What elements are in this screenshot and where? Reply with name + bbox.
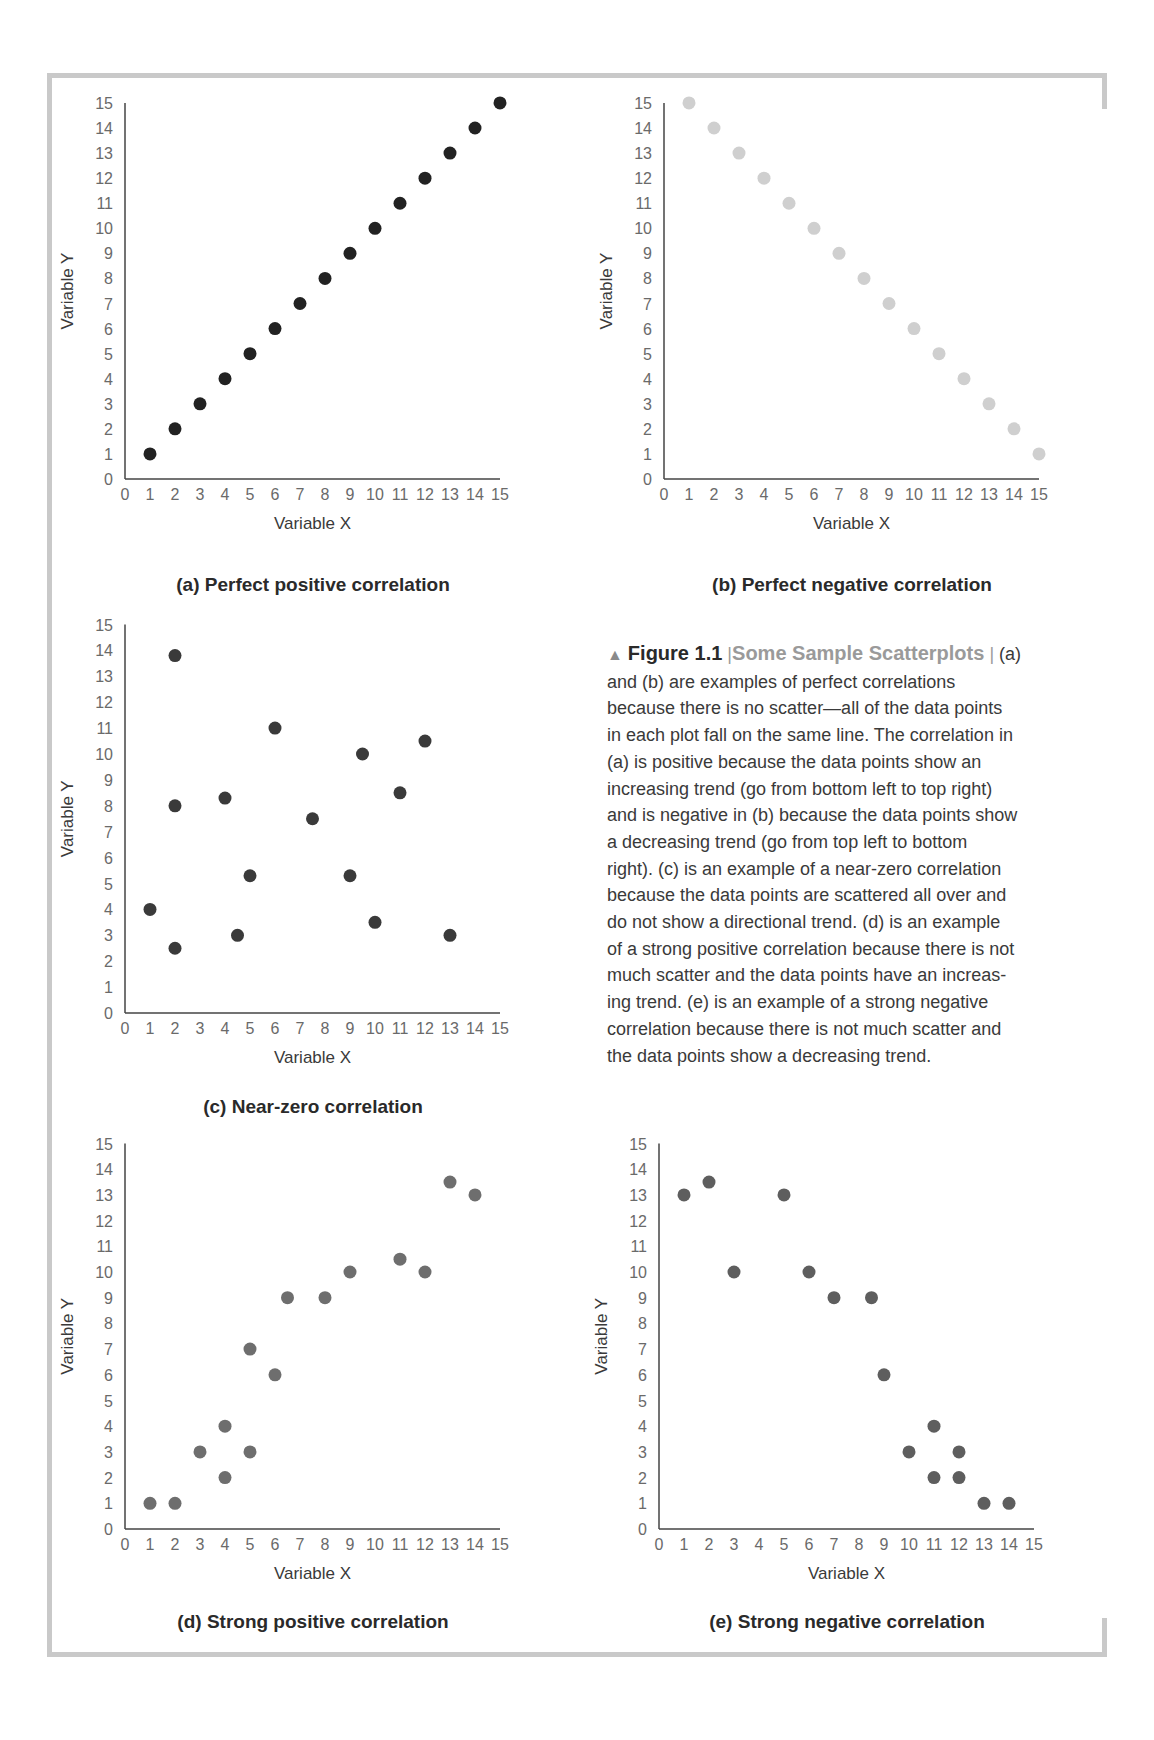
data-point (678, 1188, 691, 1201)
x-tick-label: 11 (926, 1536, 943, 1553)
y-tick-label: 5 (638, 1393, 647, 1410)
caption-line-3: in each plot fall on the same line. The … (607, 725, 1013, 745)
data-point (865, 1291, 878, 1304)
x-tick-label: 12 (950, 1536, 968, 1553)
caption-line-15: the data points show a decreasing trend. (607, 1046, 931, 1066)
caption-line-13: ing trend. (e) is an example of a strong… (607, 992, 988, 1012)
x-tick-label: 14 (1000, 1536, 1018, 1553)
y-tick-label: 0 (638, 1521, 647, 1538)
x-tick-label: 1 (680, 1536, 689, 1553)
x-tick-label: 5 (780, 1536, 789, 1553)
data-point (953, 1445, 966, 1458)
triangle-marker-icon: ▲ (607, 646, 623, 663)
caption-line-10: do not show a directional trend. (d) is … (607, 912, 1000, 932)
y-tick-label: 2 (638, 1470, 647, 1487)
caption-line-7: a decreasing trend (go from top left to … (607, 832, 967, 852)
x-tick-label: 2 (705, 1536, 714, 1553)
caption-line-5: increasing trend (go from bottom left to… (607, 779, 992, 799)
data-point (828, 1291, 841, 1304)
y-tick-label: 13 (629, 1187, 647, 1204)
x-axis-title: Variable X (808, 1564, 885, 1583)
y-tick-label: 8 (638, 1315, 647, 1332)
data-point (928, 1420, 941, 1433)
x-tick-label: 8 (855, 1536, 864, 1553)
y-tick-label: 3 (638, 1444, 647, 1461)
x-tick-label: 6 (805, 1536, 814, 1553)
data-point (703, 1176, 716, 1189)
data-point (928, 1471, 941, 1484)
caption-line-1: and (b) are examples of perfect correlat… (607, 672, 955, 692)
x-tick-label: 3 (730, 1536, 739, 1553)
caption-line-2: because there is no scatter—all of the d… (607, 698, 1002, 718)
caption-line-8: right). (c) is an example of a near-zero… (607, 859, 1001, 879)
y-tick-label: 9 (638, 1290, 647, 1307)
y-tick-label: 14 (629, 1161, 647, 1178)
caption-e: (e) Strong negative correlation (659, 1611, 1035, 1633)
y-tick-label: 10 (629, 1264, 647, 1281)
y-tick-label: 1 (638, 1495, 647, 1512)
figure-caption: ▲ Figure 1.1 |Some Sample Scatterplots |… (607, 640, 1107, 1069)
y-tick-label: 7 (638, 1341, 647, 1358)
figure-label: Figure 1.1 (628, 642, 722, 664)
data-point (778, 1188, 791, 1201)
x-tick-label: 9 (880, 1536, 889, 1553)
data-point (728, 1266, 741, 1279)
caption-line-9: because the data points are scattered al… (607, 885, 1006, 905)
caption-line-14: correlation because there is not much sc… (607, 1019, 1001, 1039)
data-point (903, 1445, 916, 1458)
data-point (953, 1471, 966, 1484)
y-axis-title: Variable Y (592, 1298, 611, 1375)
data-point (1003, 1497, 1016, 1510)
y-tick-label: 11 (630, 1238, 647, 1255)
y-tick-label: 4 (638, 1418, 647, 1435)
data-point (803, 1266, 816, 1279)
x-tick-label: 7 (830, 1536, 839, 1553)
x-tick-label: 15 (1025, 1536, 1043, 1553)
caption-line-4: (a) is positive because the data points … (607, 752, 981, 772)
caption-line-12: much scatter and the data points have an… (607, 965, 1006, 985)
caption-line-0: (a) (994, 644, 1021, 664)
data-point (878, 1368, 891, 1381)
y-tick-label: 12 (629, 1213, 647, 1230)
figure-title: Some Sample Scatterplots (732, 642, 984, 664)
y-tick-label: 15 (629, 1136, 647, 1153)
y-tick-label: 6 (638, 1367, 647, 1384)
x-tick-label: 10 (900, 1536, 918, 1553)
caption-line-6: and is negative in (b) because the data … (607, 805, 1017, 825)
x-tick-label: 0 (655, 1536, 664, 1553)
caption-line-11: of a strong positive correlation because… (607, 939, 1014, 959)
data-point (978, 1497, 991, 1510)
x-tick-label: 4 (755, 1536, 764, 1553)
x-tick-label: 13 (975, 1536, 993, 1553)
